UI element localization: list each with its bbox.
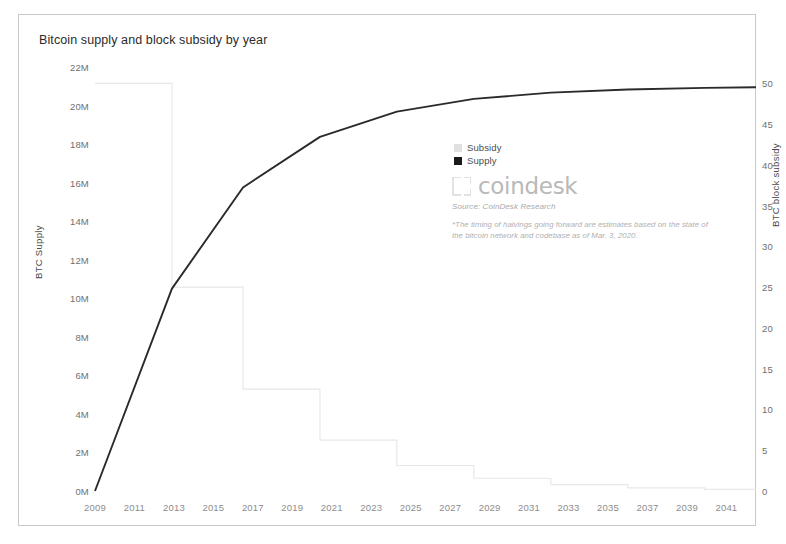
y-tick-right: 30 (762, 241, 773, 252)
y-tick-right: 0 (762, 486, 767, 497)
y-tick-left: 16M (70, 177, 89, 188)
legend-item-supply: Supply (454, 155, 502, 166)
y-tick-left: 6M (75, 370, 89, 381)
legend-label-supply: Supply (467, 155, 497, 166)
x-tick: 2017 (242, 502, 264, 513)
y-axis-left-ticks: 0M2M4M6M8M10M12M14M16M18M20M22M (39, 67, 89, 491)
x-tick: 2023 (360, 502, 382, 513)
y-tick-left: 14M (70, 216, 89, 227)
x-axis-ticks: 2009201120132015201720192021202320252027… (95, 502, 756, 518)
brand-logo-row: coindesk (452, 173, 722, 199)
plot-area (95, 67, 756, 491)
y-tick-left: 22M (70, 62, 89, 73)
x-tick: 2011 (124, 502, 145, 513)
coindesk-wordmark: coindesk (478, 173, 577, 199)
series-supply-line (95, 87, 756, 491)
brand-block: coindesk Source: CoinDesk Research *The … (452, 173, 722, 242)
x-tick: 2019 (281, 502, 303, 513)
x-tick: 2009 (84, 502, 106, 513)
x-tick: 2041 (715, 502, 737, 513)
x-tick: 2031 (518, 502, 540, 513)
y-tick-left: 0M (75, 486, 89, 497)
x-tick: 2029 (479, 502, 501, 513)
y-tick-right: 35 (762, 200, 773, 211)
y-tick-left: 10M (70, 293, 89, 304)
x-tick: 2021 (321, 502, 343, 513)
legend-label-subsidy: Subsidy (467, 142, 502, 153)
legend-swatch-supply (454, 157, 462, 165)
y-tick-right: 45 (762, 119, 773, 130)
y-tick-right: 10 (762, 404, 773, 415)
chart-title: Bitcoin supply and block subsidy by year (39, 33, 267, 47)
chart-source: Source: CoinDesk Research (452, 202, 722, 211)
y-tick-right: 25 (762, 282, 773, 293)
x-tick: 2033 (558, 502, 580, 513)
y-tick-left: 12M (70, 254, 89, 265)
y-tick-left: 18M (70, 139, 89, 150)
y-tick-left: 20M (70, 100, 89, 111)
y-tick-right: 50 (762, 78, 773, 89)
y-tick-right: 40 (762, 159, 773, 170)
legend-item-subsidy: Subsidy (454, 142, 502, 153)
y-tick-left: 4M (75, 408, 89, 419)
x-tick: 2039 (676, 502, 698, 513)
chart-legend: Subsidy Supply (454, 142, 502, 168)
y-tick-right: 15 (762, 363, 773, 374)
y-tick-right: 20 (762, 322, 773, 333)
x-tick: 2027 (439, 502, 461, 513)
legend-swatch-subsidy (454, 144, 462, 152)
chart-figure: Bitcoin supply and block subsidy by year… (18, 14, 756, 526)
coindesk-logo-icon (452, 177, 471, 196)
y-tick-right: 5 (762, 445, 767, 456)
y-tick-left: 8M (75, 331, 89, 342)
plot-svg (95, 67, 756, 491)
x-tick: 2015 (202, 502, 224, 513)
x-tick: 2013 (163, 502, 185, 513)
x-tick: 2035 (597, 502, 619, 513)
series-subsidy-step (95, 83, 756, 489)
x-tick: 2037 (637, 502, 659, 513)
y-tick-left: 2M (75, 447, 89, 458)
chart-footnote: *The timing of halvings going forward ar… (452, 219, 710, 242)
y-axis-right-ticks: 05101520253035404550 (762, 67, 786, 491)
x-tick: 2025 (400, 502, 422, 513)
